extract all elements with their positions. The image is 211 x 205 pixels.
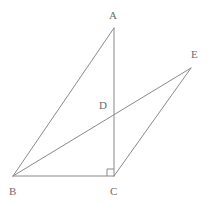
geometry-figure: A B C D E: [0, 0, 211, 205]
vertex-label-B: B: [9, 186, 16, 197]
segment-CE: [114, 68, 191, 176]
vertex-label-A: A: [109, 10, 117, 21]
right-angle-marker-icon: [107, 169, 114, 176]
vertex-label-E: E: [191, 49, 198, 60]
segment-BE: [13, 68, 191, 176]
vertex-label-D: D: [99, 100, 107, 111]
vertex-label-C: C: [110, 186, 117, 197]
